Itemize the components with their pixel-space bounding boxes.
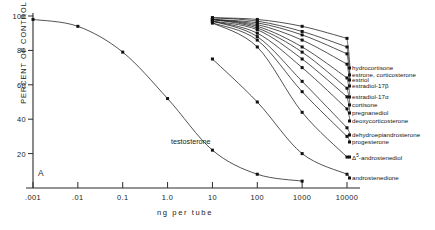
data-curves (33, 18, 347, 181)
data-point (121, 51, 124, 54)
data-point (301, 30, 304, 33)
data-point (76, 25, 79, 28)
data-point (211, 58, 214, 61)
legend-marker (348, 177, 351, 180)
legend-label: hydrocortisone (352, 64, 393, 71)
data-point-markers (32, 16, 349, 182)
legend-label: Δ5-androstenediol (352, 153, 402, 161)
data-point (256, 32, 259, 35)
data-point (256, 45, 259, 48)
data-point (301, 90, 304, 93)
y-tick-label: 40 (0, 115, 26, 124)
data-point (301, 45, 304, 48)
data-point (256, 18, 259, 21)
legend-marker (348, 156, 351, 159)
y-tick-label: 80 (0, 46, 26, 55)
data-point (301, 58, 304, 61)
x-tick-label: 1.0 (148, 193, 188, 202)
data-point (256, 35, 259, 38)
legend-marker (348, 134, 351, 137)
data-point (301, 111, 304, 114)
figure-panel-a: PERCENT OF CONTROL ng per tube A testost… (0, 0, 435, 230)
data-point (301, 152, 304, 155)
legend-label: dehydroepiandrosterone (352, 131, 420, 138)
axis-ticks (28, 16, 347, 188)
y-tick-label: 60 (0, 81, 26, 90)
data-point (346, 107, 349, 110)
axis-lines (26, 13, 360, 188)
data-point (301, 25, 304, 28)
data-point (166, 97, 169, 100)
data-point (32, 18, 35, 21)
x-axis-title: ng per tube (120, 208, 250, 217)
legend-label: androstenedione (352, 174, 399, 181)
x-tick-label: .01 (58, 193, 98, 202)
x-tick-label: .001 (13, 193, 53, 202)
curve-label-testosterone: testosterone (171, 137, 211, 146)
panel-label: A (38, 168, 44, 178)
legend-label: estradiol-17β (352, 82, 389, 89)
legend-marker (348, 120, 351, 123)
data-point (301, 80, 304, 83)
x-tick-label: 0.1 (103, 193, 143, 202)
data-point (301, 33, 304, 36)
legend-marker (348, 141, 351, 144)
legend-label: progesterone (352, 138, 389, 145)
data-point (256, 173, 259, 176)
data-point (301, 66, 304, 69)
x-tick-label: 10 (192, 193, 232, 202)
legend-label: estradiol-17α (352, 93, 389, 100)
data-point (301, 180, 304, 183)
legend-label: deoxycorticosterone (352, 117, 408, 124)
data-point (301, 51, 304, 54)
x-tick-label: 10000 (327, 193, 367, 202)
curve-deoxycorticosterone (212, 21, 347, 109)
y-tick-label: 100 (0, 12, 26, 21)
y-tick-label: 20 (0, 150, 26, 159)
legend-label: pregnanediol (352, 109, 388, 116)
data-point (256, 101, 259, 104)
x-tick-label: 100 (237, 193, 277, 202)
data-point (211, 149, 214, 152)
data-point (301, 39, 304, 42)
legend-label: cortisone (352, 101, 378, 108)
data-point (211, 16, 214, 19)
data-point (256, 39, 259, 42)
curve-dehydroepiandrosterone (212, 21, 347, 128)
x-tick-label: 1000 (282, 193, 322, 202)
